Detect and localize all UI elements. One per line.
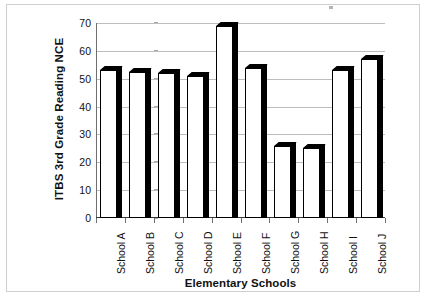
y-tick-label: 40 [69, 101, 91, 113]
bar-slot [332, 23, 349, 218]
x-tick-label: School E [231, 222, 243, 274]
bar-shadow [291, 142, 296, 218]
bar-slot [129, 23, 146, 218]
bar-shadow [320, 144, 325, 218]
x-tick-label: School F [260, 222, 272, 274]
x-tick-label: School A [115, 222, 127, 274]
bar-shadow [262, 64, 267, 218]
bar[interactable] [245, 68, 262, 218]
bar[interactable] [303, 148, 320, 218]
bar-series [96, 23, 385, 218]
chart-frame: ITBS 3rd Grade Reading NCE 0102030405060… [6, 4, 420, 292]
bar[interactable] [332, 70, 349, 218]
bar-slot [274, 23, 291, 218]
y-tick-label: 0 [69, 212, 91, 224]
y-tick-label: 10 [69, 184, 91, 196]
y-tick-label: 20 [69, 156, 91, 168]
bar-shadow [146, 68, 151, 218]
bar[interactable] [187, 76, 204, 218]
bar-shadow [233, 22, 238, 218]
x-axis-title: Elementary Schools [96, 277, 385, 289]
bar-slot [187, 23, 204, 218]
bar-slot [245, 23, 262, 218]
y-tick-label: 30 [69, 128, 91, 140]
x-axis-tick-labels: School ASchool BSchool CSchool DSchool E… [96, 224, 385, 276]
bar-slot [100, 23, 117, 218]
bar-shadow [117, 66, 122, 218]
bar[interactable] [158, 73, 175, 218]
y-axis-title: ITBS 3rd Grade Reading NCE [51, 19, 67, 219]
bar[interactable] [100, 70, 117, 218]
x-tick-label: School C [173, 222, 185, 274]
x-tick-label: School I [347, 222, 359, 274]
bar[interactable] [274, 146, 291, 218]
x-tick-label: School G [289, 222, 301, 274]
bar-slot [158, 23, 175, 218]
x-tick-mark [96, 218, 97, 223]
scan-artifact [329, 6, 333, 9]
y-tick-label: 60 [69, 45, 91, 57]
x-tick-label: School H [318, 222, 330, 274]
x-tick-label: School J [376, 222, 388, 274]
plot-area [96, 23, 385, 218]
x-tick-label: School B [144, 222, 156, 274]
bar-slot [361, 23, 378, 218]
y-axis-tick-labels: 010203040506070 [69, 23, 91, 218]
bar[interactable] [129, 72, 146, 218]
bar-shadow [349, 66, 354, 218]
bar-slot [303, 23, 320, 218]
bar-shadow [175, 69, 180, 218]
y-tick-label: 70 [69, 17, 91, 29]
bar-slot [216, 23, 233, 218]
bar[interactable] [361, 59, 378, 218]
y-tick-label: 50 [69, 73, 91, 85]
bar[interactable] [216, 26, 233, 218]
bar-shadow [378, 55, 383, 218]
bar-shadow [204, 72, 209, 218]
x-tick-label: School D [202, 222, 214, 274]
